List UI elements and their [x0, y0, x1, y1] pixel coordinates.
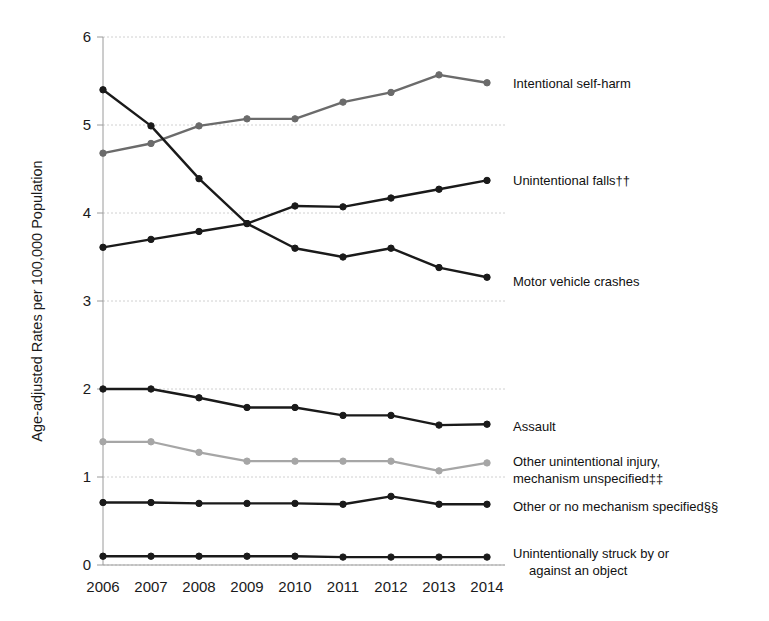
- y-axis-tick-label: 4: [83, 204, 91, 221]
- series-data-point: [100, 553, 106, 559]
- series-label-line: Unintentionally struck by or: [513, 546, 670, 561]
- x-axis-tick-label: 2014: [470, 578, 503, 595]
- series-data-point: [100, 386, 106, 392]
- series-data-point: [340, 501, 346, 507]
- series-data-point: [196, 553, 202, 559]
- y-axis-tick-label: 2: [83, 380, 91, 397]
- x-axis-tick-label: 2013: [422, 578, 455, 595]
- series-label: Intentional self-harm: [513, 76, 631, 91]
- series-label-line: against an object: [529, 563, 628, 578]
- series-label-line: Motor vehicle crashes: [513, 274, 640, 289]
- series-data-point: [196, 395, 202, 401]
- y-axis-tick-label: 0: [83, 556, 91, 573]
- series-data-point: [436, 554, 442, 560]
- y-axis-tick-label: 3: [83, 292, 91, 309]
- series-data-point: [196, 228, 202, 234]
- series-data-point: [340, 204, 346, 210]
- series-data-point: [436, 186, 442, 192]
- series-label: Other or no mechanism specified§§: [513, 499, 718, 514]
- series-data-point: [484, 554, 490, 560]
- x-axis-tick-label: 2010: [278, 578, 311, 595]
- series-data-point: [436, 264, 442, 270]
- series-data-point: [148, 140, 154, 146]
- series-data-point: [148, 386, 154, 392]
- line-chart-figure: 0123456 20062007200820092010201120122013…: [0, 0, 769, 621]
- y-axis-title-text: Age-adjusted Rates per 100,000 Populatio…: [29, 160, 45, 441]
- series-data-point: [340, 254, 346, 260]
- series-data-point: [388, 458, 394, 464]
- series-data-point: [244, 220, 250, 226]
- series-label: Unintentionally struck by oragainst an o…: [513, 546, 670, 578]
- series-data-point: [484, 177, 490, 183]
- series-data-point: [100, 499, 106, 505]
- series-data-point: [196, 449, 202, 455]
- series-label-line: Other or no mechanism specified§§: [513, 499, 718, 514]
- series-data-point: [292, 203, 298, 209]
- series-data-point: [292, 553, 298, 559]
- y-axis-tick-label: 5: [83, 116, 91, 133]
- series-data-point: [436, 501, 442, 507]
- series-line: [103, 442, 487, 471]
- x-axis-tick-label: 2011: [327, 578, 359, 595]
- y-axis-tick-labels: 0123456: [83, 28, 91, 573]
- series-data-point: [244, 116, 250, 122]
- series-label-line: Unintentional falls††: [513, 173, 630, 188]
- series-label: Unintentional falls††: [513, 173, 630, 188]
- series-label-line: Other unintentional injury,: [513, 454, 660, 469]
- series-labels: Intentional self-harmUnintentional falls…: [513, 76, 718, 578]
- x-axis-tick-label: 2009: [230, 578, 263, 595]
- series-data-point: [100, 87, 106, 93]
- data-series: [100, 72, 490, 561]
- series-data-point: [484, 421, 490, 427]
- series-label: Assault: [513, 419, 556, 434]
- series-data-point: [244, 404, 250, 410]
- series-data-point: [292, 116, 298, 122]
- series-data-point: [484, 80, 490, 86]
- x-axis-tick-label: 2007: [134, 578, 167, 595]
- series-data-point: [388, 245, 394, 251]
- series-data-point: [292, 404, 298, 410]
- series-data-point: [388, 554, 394, 560]
- series-data-point: [196, 123, 202, 129]
- series-data-point: [292, 458, 298, 464]
- series-data-point: [196, 175, 202, 181]
- series-label-line: Intentional self-harm: [513, 76, 631, 91]
- series-data-point: [244, 458, 250, 464]
- series-data-point: [148, 439, 154, 445]
- series-data-point: [292, 245, 298, 251]
- series-data-point: [148, 123, 154, 129]
- series-data-point: [196, 500, 202, 506]
- series-data-point: [340, 99, 346, 105]
- series-data-point: [148, 499, 154, 505]
- series-data-point: [388, 89, 394, 95]
- series-data-point: [388, 493, 394, 499]
- series-data-point: [340, 554, 346, 560]
- x-axis-tick-labels: 200620072008200920102011201220132014: [86, 578, 503, 595]
- series-data-point: [244, 500, 250, 506]
- series-label: Other unintentional injury,mechanism uns…: [513, 454, 663, 486]
- series-data-point: [100, 439, 106, 445]
- series-label-line: mechanism unspecified‡‡: [513, 471, 663, 486]
- series-line: [103, 180, 487, 247]
- series-data-point: [148, 553, 154, 559]
- x-axis-tick-label: 2006: [86, 578, 119, 595]
- series-data-point: [436, 468, 442, 474]
- x-axis-tick-label: 2008: [182, 578, 215, 595]
- series-data-point: [484, 501, 490, 507]
- series-data-point: [436, 422, 442, 428]
- x-axis-tick-label: 2012: [374, 578, 407, 595]
- series-data-point: [340, 458, 346, 464]
- series-label: Motor vehicle crashes: [513, 274, 640, 289]
- series-label-line: Assault: [513, 419, 556, 434]
- y-axis-title: Age-adjusted Rates per 100,000 Populatio…: [29, 160, 45, 441]
- series-data-point: [292, 500, 298, 506]
- series-data-point: [484, 274, 490, 280]
- series-data-point: [436, 72, 442, 78]
- series-data-point: [340, 412, 346, 418]
- series-data-point: [484, 460, 490, 466]
- series-data-point: [148, 236, 154, 242]
- y-axis-tick-label: 1: [83, 468, 91, 485]
- series-line: [103, 75, 487, 153]
- chart-canvas: 0123456 20062007200820092010201120122013…: [0, 0, 769, 621]
- series-data-point: [244, 553, 250, 559]
